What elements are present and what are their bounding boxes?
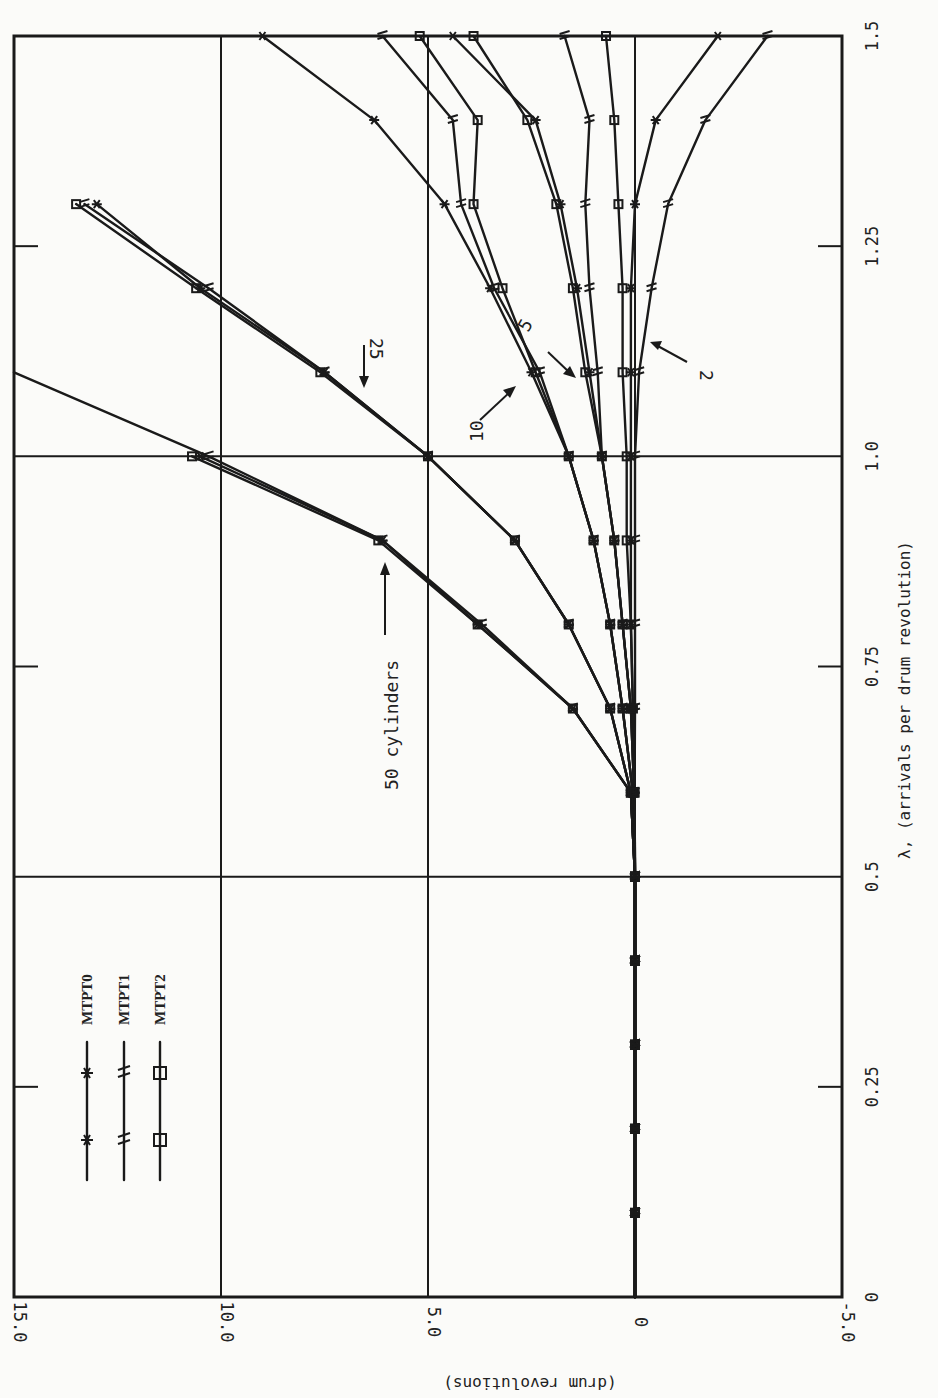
series-curve <box>383 36 636 1297</box>
y-tick-label: 10.0 <box>217 1302 237 1343</box>
series-curve <box>262 36 635 1297</box>
annotation-25: 25 <box>359 338 387 388</box>
y-tick-label: 5.0 <box>424 1307 444 1338</box>
series-curve <box>635 36 768 1297</box>
x-tick-label: 0.5 <box>862 861 882 892</box>
series-curve <box>631 36 718 1297</box>
annotation-10: 10 <box>466 386 516 442</box>
x-tick-label: 0 <box>862 1292 882 1302</box>
x-tick-labels: 00.250.50.751.01.251.5 <box>862 21 882 1302</box>
series-curve <box>97 204 635 1297</box>
y-tick-labels: -5.005.010.015.0 <box>10 1302 858 1343</box>
annotation-2-label: 2 <box>696 370 717 381</box>
annotation-10-label: 10 <box>466 420 487 442</box>
y-tick-label: 0 <box>631 1317 651 1327</box>
x-tick-label: 0.25 <box>862 1066 882 1107</box>
annotation-50-cylinders: 50 cylinders <box>380 562 402 790</box>
x-axis-title: λ, (arrivals per drum revolution) <box>895 541 914 859</box>
arrowhead-icon <box>359 376 369 388</box>
series-curve <box>606 36 635 1297</box>
arrow-line-icon <box>480 392 510 420</box>
annotation-2: 2 <box>650 341 717 381</box>
x-tick-label: 0.75 <box>862 646 882 687</box>
x-tick-label: 1.25 <box>862 226 882 267</box>
series-curve <box>565 36 635 1297</box>
annotation-5: 5 <box>513 315 576 378</box>
annotation-25-label: 25 <box>366 338 387 360</box>
y-axis-title: (drum revolutions) <box>443 1374 616 1393</box>
legend-label: MTPT1 <box>116 974 132 1025</box>
y-tick-label: 15.0 <box>10 1302 30 1343</box>
series-curve <box>474 36 636 1297</box>
arrow-line-icon <box>656 345 687 362</box>
rotated-line-chart: 00.250.50.751.01.251.5 -5.005.010.015.0 … <box>0 0 938 1398</box>
x-tick-label: 1.5 <box>862 21 882 52</box>
arrowhead-icon <box>380 562 390 575</box>
x-tick-label: 1.0 <box>862 441 882 472</box>
y-tick-label: -5.0 <box>838 1302 858 1343</box>
grid-lines <box>14 36 842 1297</box>
legend: MTPT0MTPT1MTPT2 <box>79 974 168 1180</box>
series-curve <box>14 372 635 1297</box>
legend-label: MTPT2 <box>152 974 168 1025</box>
annotation-50-label: 50 cylinders <box>381 660 402 790</box>
legend-label: MTPT0 <box>79 974 95 1025</box>
arrowhead-icon <box>650 341 662 350</box>
